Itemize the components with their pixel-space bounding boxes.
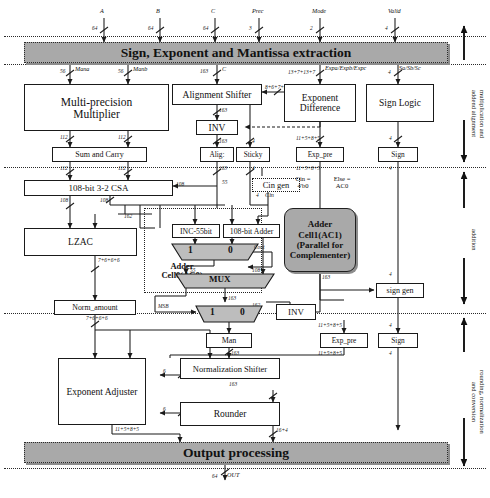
mux-main-label: MUX	[209, 275, 231, 284]
block-rounder[interactable]: Rounder	[180, 402, 280, 426]
bw-csa-out-2: 108	[100, 198, 108, 203]
csa-label: 108-bit 3-2 CSA	[66, 183, 130, 193]
block-inc-55bit[interactable]: INC-55bit	[172, 224, 220, 238]
input-label-valid: Valid	[388, 8, 401, 14]
block-norm-amount[interactable]: Norm_amount	[54, 300, 136, 315]
divider-bottom	[4, 468, 486, 469]
block-sticky[interactable]: Sticky	[236, 147, 270, 162]
bw-csa-out-3: 162	[124, 214, 132, 219]
bw-sign-in: 4	[388, 70, 391, 75]
input-label-mode: Mode	[312, 8, 326, 14]
block-normalization-shifter[interactable]: Normalization Shifter	[180, 358, 280, 379]
divider-top	[4, 36, 486, 37]
mux-ac0-zero: 0	[228, 246, 233, 256]
stage-label-addition: addition	[470, 212, 478, 268]
inv-bottom-label: INV	[286, 307, 306, 317]
exponent-adjuster-label: Exponent Adjuster	[65, 387, 140, 397]
man-label: Man	[220, 336, 239, 345]
block-multi-precision-multiplier[interactable]: Multi-precision Multiplier	[24, 84, 169, 131]
block-sign-logic[interactable]: Sign Logic	[366, 84, 434, 122]
bw-c: 64	[203, 26, 208, 31]
inc-55bit-label: INC-55bit	[178, 227, 214, 236]
input-label-b: B	[156, 8, 160, 14]
mux-ac0-one: 1	[188, 246, 193, 256]
bw-sign-top: 4	[389, 136, 392, 141]
bw-exp-pre-b-in: 11+5+8+5	[318, 323, 342, 328]
else-ac0-label: Else = AC0	[327, 176, 357, 189]
bw-cin: 4	[256, 193, 259, 198]
bw-inc-out: 55	[190, 268, 195, 273]
sign-logic-label: Sign Logic	[377, 98, 423, 108]
fma-block-diagram: A B C Prec Mode Valid 64 64 64 3 2 4 Sig…	[0, 0, 490, 498]
block-exponent-difference[interactable]: Exponent Difference	[284, 84, 356, 122]
bw-lzac-out: 7+6+6+6	[98, 258, 120, 263]
bw-mult-out-2: 112	[118, 135, 126, 140]
bw-exp-in: 13+7+13+7	[288, 70, 315, 75]
sig-signs: Sa/Sb/Sc	[399, 65, 421, 71]
alig-label: Alig:	[208, 150, 227, 159]
bw-shift-ctrl-2: 6	[163, 407, 166, 412]
bw-signgen-in: 4	[389, 272, 392, 277]
block-sum-and-carry[interactable]: Sum and Carry	[52, 147, 147, 162]
bw-shift-ctrl-1: 6	[163, 369, 166, 374]
block-man[interactable]: Man	[206, 333, 252, 348]
bw-a: 64	[92, 26, 97, 31]
block-lzac[interactable]: LZAC	[24, 228, 137, 256]
sticky-label: Sticky	[242, 150, 265, 159]
block-alignment-shifter[interactable]: Alignment Shifter	[172, 84, 262, 105]
bw-valid: 4	[385, 26, 388, 31]
bw-sticky-out: 4	[252, 166, 255, 171]
block-108bit-adder[interactable]: 108-bit Adder	[223, 224, 280, 238]
exponent-difference-label: Exponent Difference	[298, 93, 342, 113]
block-csa[interactable]: 108-bit 3-2 CSA	[24, 180, 173, 196]
sig-manb: Manb	[133, 66, 147, 72]
bw-norm-out: 7+6+6+6	[86, 316, 108, 321]
bw-mode: 2	[310, 26, 313, 31]
bw-exp-pre-b-out: 11+5+8+5	[318, 351, 342, 356]
normalization-shifter-label: Normalization Shifter	[191, 364, 269, 374]
bw-align-out: 163	[219, 108, 227, 113]
divider-stage1	[4, 167, 486, 168]
block-sign-top[interactable]: Sign	[378, 147, 418, 162]
sig-out: OUT	[227, 472, 239, 478]
bw-addend: 163	[200, 69, 208, 74]
cin-gen-label: Cin gen	[261, 180, 292, 190]
inv-top-label: INV	[207, 123, 228, 133]
block-sign-gen[interactable]: sign gen	[376, 283, 424, 298]
cin-constant-label: Cin = 4'b0	[288, 176, 318, 189]
adder-cell1-label: Adder Cell1(AC1) (Parallel for Complemen…	[290, 219, 350, 260]
mux-final-one: 1	[210, 308, 215, 318]
block-inv-bottom[interactable]: INV	[276, 304, 316, 320]
extraction-stage-bar: Sign, Exponent and Mantissa extraction	[24, 42, 448, 63]
block-alig[interactable]: Alig:	[200, 147, 234, 162]
extraction-stage-label: Sign, Exponent and Mantissa extraction	[121, 45, 352, 61]
bw-inv-out: 163	[219, 139, 227, 144]
output-stage-label: Output processing	[183, 445, 289, 461]
mux-final[interactable]: 1 0	[196, 306, 262, 322]
multiplier-label: Multi-precision Multiplier	[59, 96, 135, 120]
block-inv-top[interactable]: INV	[196, 120, 238, 135]
bw-result: 64	[212, 474, 217, 479]
block-adder-cell1[interactable]: Adder Cell1(AC1) (Parallel for Complemen…	[284, 208, 356, 272]
exp-pre-top-label: Exp_pre	[306, 150, 335, 159]
block-exp-pre-bottom[interactable]: Exp_pre	[320, 333, 368, 348]
bw-adder-out: 108	[252, 268, 260, 273]
bw-b: 64	[148, 26, 153, 31]
sign-bottom-label: Sign	[389, 336, 406, 345]
stage-label-rounding: rounding, normalization and conversion	[470, 352, 486, 452]
bw-mant-b: 56	[118, 69, 123, 74]
output-stage-bar: Output processing	[24, 442, 448, 463]
mux-ac0[interactable]: 1 0	[172, 244, 258, 260]
block-exp-pre-top[interactable]: Exp_pre	[296, 147, 344, 162]
sig-cin: Cin	[265, 192, 274, 198]
bw-round-out: 16+4	[276, 428, 288, 433]
norm-amount-label: Norm_amount	[70, 303, 119, 312]
block-sign-bottom[interactable]: Sign	[378, 333, 418, 348]
bw-sc-out-1: 112	[60, 166, 68, 171]
bw-mult-out-1: 112	[60, 135, 68, 140]
bw-cout: Cout	[254, 245, 264, 250]
block-exponent-adjuster[interactable]: Exponent Adjuster	[58, 358, 146, 425]
sign-gen-label: sign gen	[385, 286, 416, 295]
exp-pre-bottom-label: Exp_pre	[330, 336, 359, 345]
mux-main[interactable]: MUX	[176, 274, 274, 288]
